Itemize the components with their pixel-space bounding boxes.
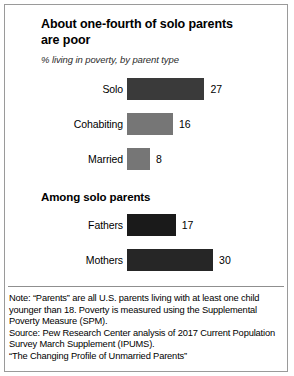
bar-row: Cohabiting16 (5, 113, 287, 135)
bar (127, 214, 176, 236)
footnote-source: Source: Pew Research Center analysis of … (9, 328, 283, 351)
bar-row: Fathers17 (5, 214, 287, 236)
bar-row: Married8 (5, 148, 287, 170)
bar-row: Mothers30 (5, 249, 287, 271)
bar-value-label: 30 (219, 249, 231, 271)
bar-category-label: Fathers (5, 214, 123, 236)
chart-inner: About one-fourth of solo parents are poo… (5, 5, 287, 371)
footnote-report: “The Changing Profile of Unmarried Paren… (9, 351, 283, 363)
bar-category-label: Mothers (5, 249, 123, 271)
footer-divider (8, 286, 284, 287)
chart-title: About one-fourth of solo parents are poo… (41, 16, 251, 48)
bar-category-label: Solo (5, 78, 123, 100)
bar-category-label: Cohabiting (5, 113, 123, 135)
bar (127, 148, 150, 170)
bar-value-label: 16 (179, 113, 191, 135)
footnote-note: Note: “Parents” are all U.S. parents liv… (9, 293, 283, 328)
bar-value-label: 27 (210, 78, 222, 100)
bar (127, 249, 213, 271)
chart-card: About one-fourth of solo parents are poo… (4, 4, 288, 372)
section-heading-2: Among solo parents (41, 191, 150, 203)
bar-category-label: Married (5, 148, 123, 170)
bar-value-label: 17 (182, 214, 194, 236)
chart-subtitle: % living in poverty, by parent type (41, 54, 261, 65)
bar (127, 78, 204, 100)
bar (127, 113, 173, 135)
bar-value-label: 8 (156, 148, 162, 170)
chart-footnote: Note: “Parents” are all U.S. parents liv… (9, 293, 283, 363)
bar-row: Solo27 (5, 78, 287, 100)
